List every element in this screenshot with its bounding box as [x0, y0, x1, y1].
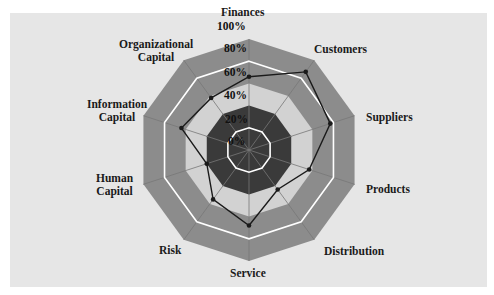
data-point: [209, 96, 214, 101]
label-products: Products: [366, 183, 410, 196]
label-service: Service: [230, 267, 266, 280]
tick-80: 80%: [224, 42, 247, 54]
label-suppliers: Suppliers: [366, 111, 413, 124]
data-point: [328, 121, 333, 126]
data-point: [247, 74, 252, 79]
radar-chart: [0, 0, 494, 295]
label-human-capital: Human Capital: [96, 172, 133, 198]
data-point: [204, 161, 209, 166]
tick-40: 40%: [224, 89, 247, 101]
label-organizational-capital: Organizational Capital: [119, 38, 193, 64]
data-point: [307, 167, 312, 172]
tick-0: 0%: [228, 135, 245, 147]
data-point: [303, 70, 308, 75]
label-information-capital: Information Capital: [87, 98, 147, 124]
tick-100: 100%: [217, 20, 246, 32]
label-risk: Risk: [159, 244, 181, 257]
label-customers: Customers: [314, 43, 367, 56]
label-distribution: Distribution: [324, 245, 384, 258]
data-point: [211, 197, 216, 202]
tick-20: 20%: [225, 113, 248, 125]
data-point: [247, 223, 252, 228]
tick-60: 60%: [224, 66, 247, 78]
data-point: [179, 126, 184, 131]
label-finances: Finances: [221, 6, 264, 19]
data-point: [275, 187, 280, 192]
